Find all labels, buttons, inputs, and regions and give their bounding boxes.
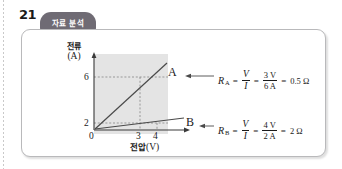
problem-number: 21	[19, 7, 36, 22]
formula-b-result: 2 Ω	[290, 126, 303, 136]
formula-a-def-numerator: V	[242, 70, 250, 81]
formula-a-value-fraction: 3 V 6 A	[263, 71, 277, 90]
leader-arrow-b	[199, 124, 205, 128]
page-edge-rule	[3, 0, 4, 169]
formula-b-value-fraction: 4 V 2 A	[262, 121, 276, 140]
formula-a-definition-fraction: V I	[242, 70, 250, 91]
series-label-a: A	[168, 65, 177, 80]
y-tick-label-6: 6	[84, 72, 89, 82]
resistance-formula-a: RA = V I = 3 V 6 A = 0.5 Ω	[218, 70, 309, 91]
y-tick-label-2: 2	[84, 118, 89, 128]
formula-a-val-denominator: 6 A	[263, 81, 277, 90]
section-badge-label: 자료 분석	[52, 17, 85, 28]
x-tick-label-4: 4	[153, 131, 158, 141]
formula-a-def-denominator: I	[243, 81, 248, 91]
formula-a-equals-2: =	[254, 76, 259, 86]
series-label-b: B	[186, 115, 194, 130]
x-axis-label-unit: (V)	[146, 142, 159, 152]
formula-b-val-denominator: 2 A	[263, 131, 277, 140]
formula-a-subscript: A	[225, 79, 230, 86]
formula-b-equals-1: =	[232, 126, 237, 136]
formula-b-equals-2: =	[253, 126, 258, 136]
x-axis-label-text: 전압	[130, 142, 146, 152]
formula-b-equals-3: =	[281, 126, 286, 136]
x-axis-label: 전압(V)	[130, 140, 159, 152]
figure-panel: 전류 (A) 전압(V) 6 2 0 3 4 A B RA = V I = 3 …	[21, 29, 326, 157]
formula-b-symbol: R	[218, 125, 224, 136]
y-axis-label: 전류 (A)	[63, 42, 85, 61]
formula-a-equals-1: =	[233, 76, 238, 86]
x-tick-label-3: 3	[136, 131, 141, 141]
formula-b-subscript: B	[225, 129, 229, 136]
formula-a-symbol: R	[218, 75, 224, 86]
graph-figure: 전류 (A) 전압(V) 6 2 0 3 4 A B RA = V I = 3 …	[22, 30, 327, 158]
leader-arrow-a	[185, 74, 191, 78]
formula-b-def-denominator: I	[243, 131, 248, 141]
formula-a-val-numerator: 3 V	[263, 71, 277, 81]
formula-b-val-numerator: 4 V	[262, 121, 276, 131]
x-tick-label-0: 0	[89, 131, 94, 141]
formula-b-definition-fraction: V I	[242, 120, 250, 141]
formula-a-result: 0.5 Ω	[290, 76, 309, 86]
resistance-formula-b: RB = V I = 4 V 2 A = 2 Ω	[218, 120, 303, 141]
formula-b-def-numerator: V	[242, 120, 250, 131]
y-axis-label-unit: (A)	[63, 52, 85, 62]
formula-a-equals-3: =	[281, 76, 286, 86]
shaded-region	[94, 54, 168, 134]
